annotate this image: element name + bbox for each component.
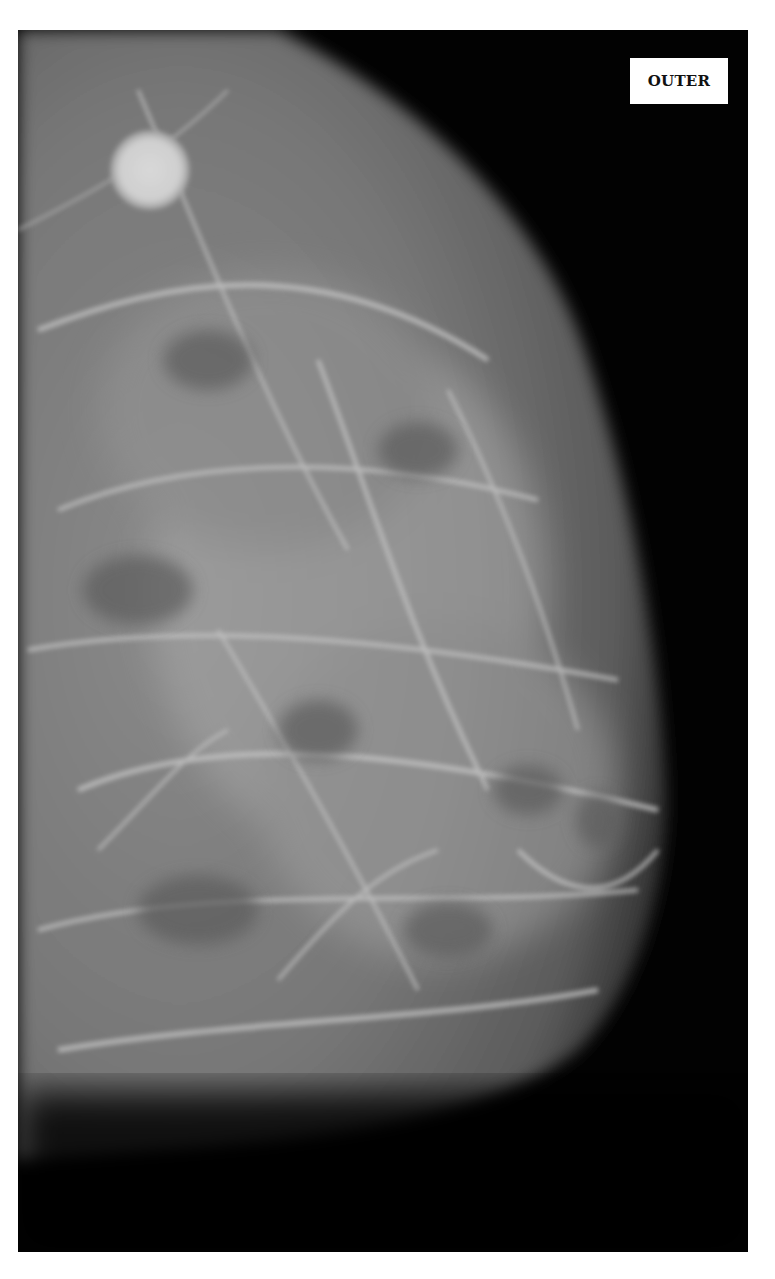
view-label: OUTER — [630, 58, 728, 104]
round-mass — [110, 130, 190, 210]
breast-tissue-illustration — [18, 30, 748, 1252]
mammogram-image — [18, 30, 748, 1252]
